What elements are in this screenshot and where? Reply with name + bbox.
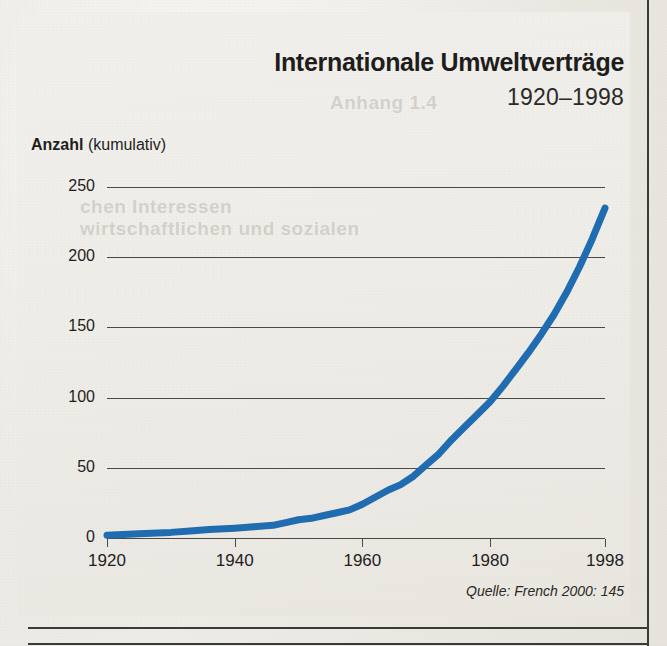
page-border-right: [647, 0, 649, 646]
source-note: Quelle: French 2000: 145: [466, 583, 624, 599]
x-tick-label-1960: 1960: [327, 551, 397, 571]
data-series-line: [107, 182, 611, 544]
y-tick-label-200: 200: [33, 247, 95, 265]
y-tick-label-50: 50: [33, 458, 95, 476]
x-tick-label-1940: 1940: [200, 551, 270, 571]
y-tick-label-150: 150: [33, 317, 95, 335]
y-axis-caption-strong: Anzahl: [31, 136, 83, 153]
page-border-bottom: [28, 627, 647, 629]
x-tick-label-1920: 1920: [72, 551, 142, 571]
page-border-bottom-secondary: [28, 643, 647, 645]
y-axis-caption: Anzahl (kumulativ): [31, 136, 166, 154]
chart-title: Internationale Umweltverträge: [274, 48, 624, 77]
chart-subtitle: 1920–1998: [507, 84, 624, 111]
y-tick-label-250: 250: [33, 177, 95, 195]
x-tick-label-1980: 1980: [455, 551, 525, 571]
y-axis-caption-light: (kumulativ): [88, 136, 166, 153]
x-tick-label-1998: 1998: [570, 551, 640, 571]
y-tick-label-0: 0: [33, 528, 95, 546]
series-path-umweltvertraege: [107, 208, 605, 535]
y-tick-label-100: 100: [33, 388, 95, 406]
